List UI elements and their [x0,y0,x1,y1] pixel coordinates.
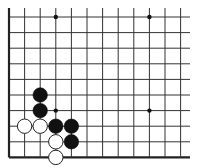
black-stone [64,119,78,133]
black-stone [33,103,47,117]
star-point-icon [54,108,58,112]
white-stone [17,119,31,133]
white-stone [49,135,63,149]
black-stone [64,135,78,149]
star-point-icon [147,108,151,112]
black-stone [33,88,47,102]
board-grid [9,8,190,157]
star-point-icon [147,15,151,19]
white-stone [49,150,63,164]
black-stone [49,119,63,133]
go-board [0,0,198,168]
star-point-icon [54,15,58,19]
white-stone [33,119,47,133]
